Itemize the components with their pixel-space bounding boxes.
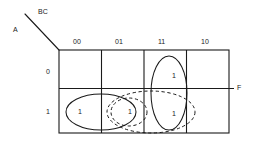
karnaugh-map-diagram: 00 01 11 10 0 1 BC A F 1 1 1 1 [0, 0, 253, 144]
col-variable-label-bc: BC [38, 8, 48, 16]
output-variable-label-f: F [237, 84, 241, 92]
column-header-10: 10 [201, 38, 209, 46]
axis-divider-line [25, 14, 59, 50]
cell-value-row1-col01: 1 [122, 108, 138, 116]
column-header-11: 11 [158, 38, 165, 46]
cell-value-row1-col11: 1 [166, 110, 182, 118]
column-header-01: 01 [115, 38, 123, 46]
grouping-loops [66, 56, 195, 133]
column-header-00: 00 [73, 38, 81, 46]
cell-value-row0-col11: 1 [166, 72, 182, 80]
row-variable-label-a: A [13, 26, 18, 34]
kmap-canvas [0, 0, 253, 144]
cell-value-row1-col00: 1 [72, 108, 88, 116]
row-header-0: 0 [46, 68, 50, 76]
row-header-1: 1 [46, 108, 50, 116]
